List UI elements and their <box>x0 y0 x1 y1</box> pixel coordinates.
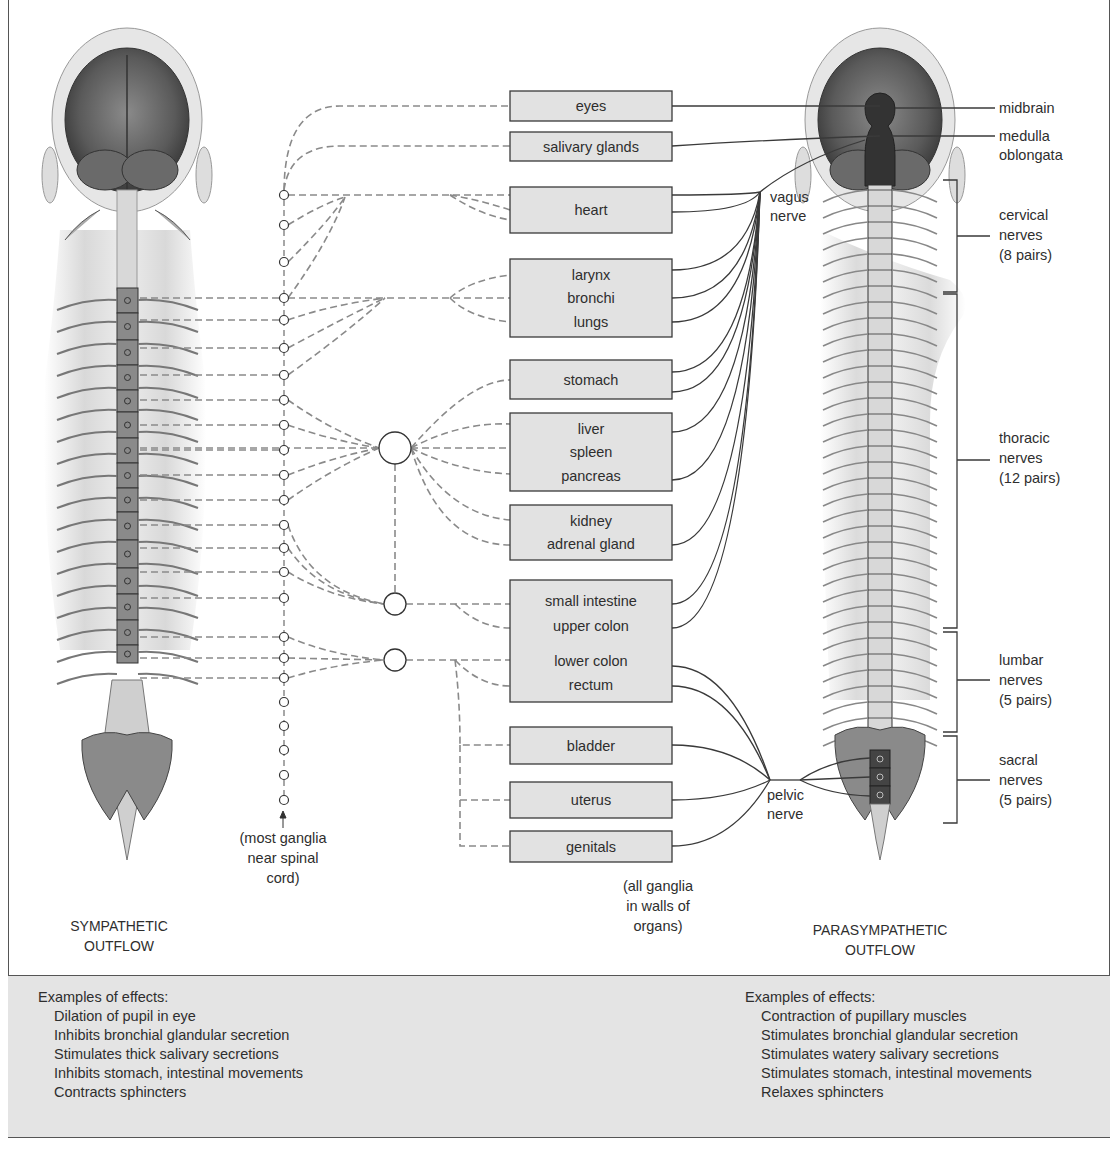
organ-box-lungs: larynxbronchilungs <box>510 259 672 337</box>
label-cervical-1: cervical <box>999 207 1048 223</box>
nerve-labels: vagus nerve pelvic nerve <box>767 189 809 822</box>
ganglion-icon <box>280 771 289 780</box>
ganglion-icon <box>280 471 289 480</box>
collateral-ganglion-icon <box>384 649 406 671</box>
organ-box-liver: liverspleenpancreas <box>510 413 672 491</box>
effect-item: Contracts sphincters <box>38 1083 303 1102</box>
ganglion-icon <box>280 421 289 430</box>
ganglion-icon <box>280 191 289 200</box>
ganglion-icon <box>280 316 289 325</box>
effect-item: Stimulates bronchial glandular secretion <box>745 1026 1032 1045</box>
ganglion-icon <box>280 544 289 553</box>
label-midbrain: midbrain <box>999 100 1055 116</box>
ganglion-icon <box>280 344 289 353</box>
ganglion-icon <box>280 594 289 603</box>
organ-box-stomach: stomach <box>510 360 672 399</box>
organ-label: spleen <box>570 444 613 460</box>
ganglion-icon <box>280 568 289 577</box>
label-sacral-2: nerves <box>999 772 1043 788</box>
label-lumbar-3: (5 pairs) <box>999 692 1052 708</box>
note-para-3: organs) <box>633 918 682 934</box>
ganglion-icon <box>280 221 289 230</box>
organ-label: bladder <box>567 738 616 754</box>
label-thoracic-3: (12 pairs) <box>999 470 1060 486</box>
note-para-1: (all ganglia <box>623 878 694 894</box>
effect-item: Relaxes sphincters <box>745 1083 1032 1102</box>
organ-label: pancreas <box>561 468 621 484</box>
note-sym-2: near spinal <box>248 850 319 866</box>
title-sympathetic-1: SYMPATHETIC <box>70 918 168 934</box>
effect-item: Stimulates watery salivary secretions <box>745 1045 1032 1064</box>
label-thoracic-1: thoracic <box>999 430 1050 446</box>
effects-heading: Examples of effects: <box>38 988 303 1007</box>
ganglion-icon <box>280 258 289 267</box>
ganglion-icon <box>280 294 289 303</box>
effect-item: Inhibits bronchial glandular secretion <box>38 1026 303 1045</box>
effect-item: Contraction of pupillary muscles <box>745 1007 1032 1026</box>
label-sacral-3: (5 pairs) <box>999 792 1052 808</box>
ganglion-icon <box>280 674 289 683</box>
organ-box-salivary: salivary glands <box>510 132 672 161</box>
organ-label: lower colon <box>554 653 627 669</box>
effect-item: Stimulates stomach, intestinal movements <box>745 1064 1032 1083</box>
ganglion-icon <box>280 371 289 380</box>
parasympathetic-figure <box>795 28 966 860</box>
organ-label: kidney <box>570 513 613 529</box>
ganglion-icon <box>280 796 289 805</box>
organ-box-kidney: kidneyadrenal gland <box>510 505 672 560</box>
label-sacral-1: sacral <box>999 752 1038 768</box>
effect-item: Stimulates thick salivary secretions <box>38 1045 303 1064</box>
organ-label: stomach <box>564 372 619 388</box>
label-medulla-2: oblongata <box>999 147 1064 163</box>
organ-label: salivary glands <box>543 139 639 155</box>
organ-box-genitals: genitals <box>510 831 672 862</box>
label-thoracic-2: nerves <box>999 450 1043 466</box>
organ-label: larynx <box>572 267 611 283</box>
outflow-titles: SYMPATHETIC OUTFLOW PARASYMPATHETIC OUTF… <box>70 918 947 958</box>
organ-label: heart <box>574 202 607 218</box>
collateral-ganglion-icon <box>379 432 411 464</box>
organ-label: liver <box>578 421 605 437</box>
label-lumbar-1: lumbar <box>999 652 1043 668</box>
sacral-segments <box>870 750 890 804</box>
collateral-ganglion-icon <box>384 593 406 615</box>
autonomic-nervous-system-diagram: eyessalivary glandsheartlarynxbronchilun… <box>0 0 1113 975</box>
organ-label: eyes <box>576 98 607 114</box>
organ-label: genitals <box>566 839 616 855</box>
ganglion-icon <box>280 521 289 530</box>
label-pelvic-1: pelvic <box>767 787 804 803</box>
organ-label: bronchi <box>567 290 615 306</box>
brainstem-icon <box>865 93 895 186</box>
organ-label: uterus <box>571 792 611 808</box>
title-parasympathetic-1: PARASYMPATHETIC <box>813 922 948 938</box>
sympathetic-ganglion-chain <box>280 190 412 805</box>
label-pelvic-2: nerve <box>767 806 803 822</box>
ganglion-icon <box>280 722 289 731</box>
organ-label: lungs <box>574 314 609 330</box>
organ-label: rectum <box>569 677 613 693</box>
label-cervical-2: nerves <box>999 227 1043 243</box>
effects-panel: Examples of effects: Dilation of pupil i… <box>8 975 1110 1138</box>
note-sym-1: (most ganglia <box>239 830 327 846</box>
sympathetic-figure <box>42 28 212 860</box>
note-para-2: in walls of <box>626 898 691 914</box>
effect-item: Inhibits stomach, intestinal movements <box>38 1064 303 1083</box>
organ-box-eyes: eyes <box>510 91 672 121</box>
organ-box-bladder: bladder <box>510 727 672 764</box>
title-parasympathetic-2: OUTFLOW <box>845 942 916 958</box>
organ-label: small intestine <box>545 593 637 609</box>
ganglion-icon <box>280 698 289 707</box>
label-medulla-1: medulla <box>999 128 1051 144</box>
arrow-up-icon <box>280 811 286 828</box>
label-vagus-1: vagus <box>770 189 809 205</box>
ganglion-icon <box>280 633 289 642</box>
organ-label: adrenal gland <box>547 536 635 552</box>
note-sym-3: cord) <box>266 870 299 886</box>
sympathetic-effects: Examples of effects: Dilation of pupil i… <box>38 988 303 1102</box>
ganglion-icon <box>280 496 289 505</box>
ganglion-icon <box>280 396 289 405</box>
effect-item: Dilation of pupil in eye <box>38 1007 303 1026</box>
label-lumbar-2: nerves <box>999 672 1043 688</box>
right-labels: midbrain medulla oblongata cervical nerv… <box>999 100 1064 808</box>
organ-box-intestine: small intestineupper colonlower colonrec… <box>510 580 672 702</box>
